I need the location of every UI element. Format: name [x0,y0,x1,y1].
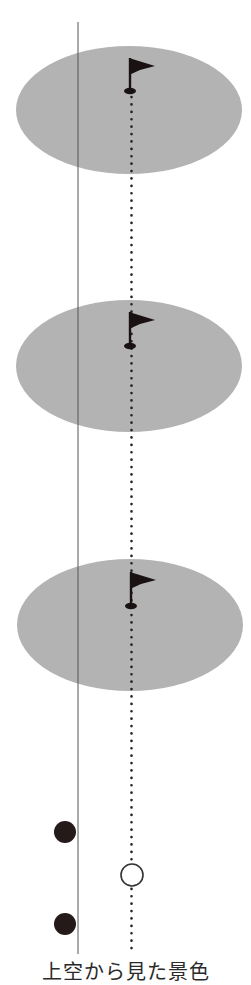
greens-layer [16,46,243,691]
dark-ball-icon [54,821,76,843]
diagram-caption: 上空から見た景色 [0,956,251,985]
white-ball-icon [121,864,143,886]
dark-ball-icon [54,913,76,935]
